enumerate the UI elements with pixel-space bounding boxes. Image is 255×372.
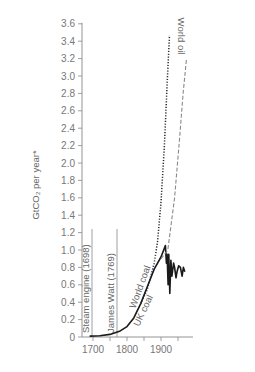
- y-tick-label: 3.4: [61, 36, 75, 47]
- y-tick-label: 0.4: [61, 297, 75, 308]
- y-tick-label: 0.8: [61, 262, 75, 273]
- y-tick-label: 0: [69, 332, 75, 343]
- y-tick-label: 1.8: [61, 175, 75, 186]
- y-tick-label: 1.4: [61, 210, 75, 221]
- y-axis-label: GtCO₂ per year*: [30, 150, 41, 219]
- chart: GtCO₂ per year* 00.20.40.60.81.01.21.41.…: [0, 0, 255, 372]
- y-tick-label: 0.2: [61, 314, 75, 325]
- y-tick-label: 3.2: [61, 53, 75, 64]
- y-tick-label: 2.4: [61, 123, 75, 134]
- y-tick-label: 1.0: [61, 245, 75, 256]
- x-tick-label: 1700: [82, 344, 105, 355]
- x-tick-label: 1900: [150, 344, 173, 355]
- y-axis: 00.20.40.60.81.01.21.41.61.82.02.22.42.6…: [61, 18, 82, 342]
- y-tick-label: 3.6: [61, 18, 75, 29]
- y-tick-label: 2.2: [61, 140, 75, 151]
- y-tick-label: 1.2: [61, 227, 75, 238]
- world-oil-line: [161, 59, 187, 259]
- world-oil-label: World oil: [176, 18, 187, 55]
- y-tick-label: 2.0: [61, 158, 75, 169]
- james-watt-label: James Watt (1769): [105, 253, 116, 333]
- y-tick-label: 2.6: [61, 105, 75, 116]
- world-coal-line: [141, 35, 170, 304]
- y-tick-label: 1.6: [61, 192, 75, 203]
- x-tick-label: 1800: [116, 344, 139, 355]
- y-tick-label: 3.0: [61, 71, 75, 82]
- y-tick-label: 2.8: [61, 88, 75, 99]
- steam-engine-label: Steam engine (1698): [80, 244, 91, 333]
- y-tick-label: 0.6: [61, 279, 75, 290]
- x-axis: 170018001900: [82, 337, 193, 355]
